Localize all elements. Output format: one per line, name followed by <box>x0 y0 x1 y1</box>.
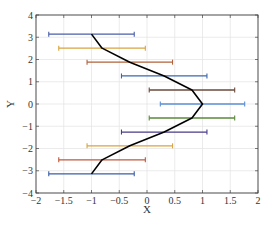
y-tick-label: 3 <box>28 32 33 43</box>
y-axis-label: Y <box>4 100 16 108</box>
y-tick-label: 0 <box>28 99 33 110</box>
x-tick-label: 1 <box>200 195 205 206</box>
x-tick-label: 2 <box>256 195 261 206</box>
chart-background <box>0 0 270 228</box>
x-axis-label: X <box>143 203 151 215</box>
y-tick-label: 4 <box>28 10 33 21</box>
y-tick-label: 2 <box>28 54 33 65</box>
x-tick-label: 0.5 <box>169 195 182 206</box>
x-tick-label: −1 <box>86 195 97 206</box>
x-tick-label: −0.5 <box>110 195 128 206</box>
y-tick-label: −4 <box>22 188 33 199</box>
y-tick-label: −2 <box>22 143 33 154</box>
x-tick-label: −1.5 <box>55 195 73 206</box>
y-tick-label: −1 <box>22 121 33 132</box>
y-tick-label: −3 <box>22 165 33 176</box>
errorbar-chart: −2−1.5−1−0.500.511.52 −4−3−2−101234 X Y <box>0 0 270 228</box>
y-tick-label: 1 <box>28 76 33 87</box>
x-tick-label: 1.5 <box>224 195 237 206</box>
